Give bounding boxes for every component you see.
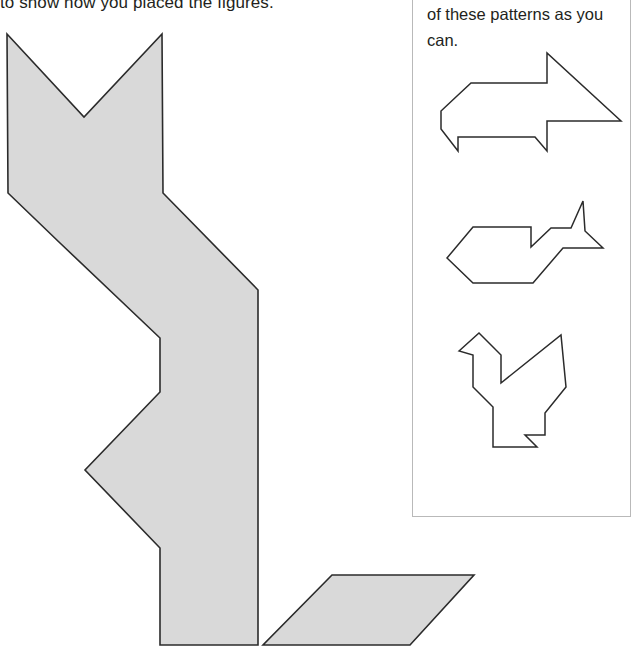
parallelogram-piece [263,575,474,645]
worksheet-page: to show how you placed the figures. of t… [0,0,639,651]
large-body-piece [7,34,258,645]
assembled-tangram-figure [0,0,639,651]
